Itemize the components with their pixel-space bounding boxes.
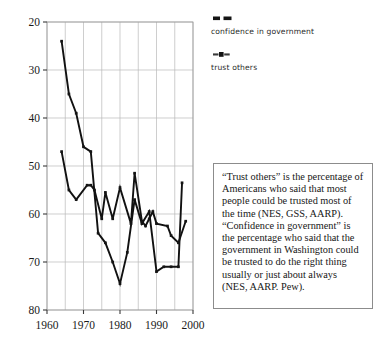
data-point-marker <box>170 265 173 268</box>
y-tick-label: 30 <box>29 64 41 76</box>
data-point-marker <box>89 184 92 187</box>
legend-label-confidence: confidence in government <box>211 27 381 37</box>
data-point-marker <box>86 184 89 187</box>
y-tick-label: 50 <box>29 160 41 172</box>
y-tick-label: 40 <box>29 112 41 124</box>
data-point-marker <box>104 191 107 194</box>
chart-page: 80706050403020 19601970198019902000 conf… <box>0 0 385 360</box>
data-point-marker <box>97 232 100 235</box>
data-point-marker <box>100 217 103 220</box>
legend-entry-trust: trust others <box>211 50 381 73</box>
data-point-marker <box>60 150 63 153</box>
data-point-marker <box>141 220 144 223</box>
data-point-marker <box>148 217 151 220</box>
annotation-text: “Trust others” is the percentage of Amer… <box>222 171 365 293</box>
data-point-marker <box>130 222 133 225</box>
y-tick-label: 20 <box>29 16 41 28</box>
data-point-marker <box>170 234 173 237</box>
data-point-marker <box>68 189 71 192</box>
series-line-0 <box>62 41 182 283</box>
data-point-marker <box>144 225 147 228</box>
legend-swatch-trust-icon <box>212 50 242 59</box>
data-point-marker <box>162 265 165 268</box>
data-point-marker <box>152 210 155 213</box>
data-point-marker <box>60 40 63 43</box>
x-tick-label: 2000 <box>182 319 205 331</box>
data-point-marker <box>75 198 78 201</box>
chart-legend: confidence in government trust others <box>211 14 381 86</box>
data-point-marker <box>104 241 107 244</box>
x-tick-label: 1960 <box>36 319 59 331</box>
data-point-marker <box>111 261 114 264</box>
data-point-marker <box>89 150 92 153</box>
legend-swatch-confidence-icon <box>212 14 242 23</box>
data-point-marker <box>184 220 187 223</box>
y-tick-label: 60 <box>29 208 41 220</box>
x-tick-label: 1980 <box>109 319 132 331</box>
chart-panel: 80706050403020 19601970198019902000 <box>0 0 210 360</box>
data-point-marker <box>133 172 136 175</box>
data-point-marker <box>155 222 158 225</box>
series-line-1 <box>62 152 186 243</box>
legend-entry-confidence: confidence in government <box>211 14 381 37</box>
line-chart: 80706050403020 19601970198019902000 <box>0 0 210 360</box>
data-series-group <box>60 40 187 285</box>
data-point-marker <box>126 251 129 254</box>
data-point-marker <box>119 186 122 189</box>
data-point-marker <box>181 181 184 184</box>
annotation-box: “Trust others” is the percentage of Amer… <box>213 163 373 309</box>
y-axis-tick-labels: 80706050403020 <box>29 16 41 316</box>
data-point-marker <box>177 265 180 268</box>
data-point-marker <box>166 225 169 228</box>
data-point-marker <box>111 217 114 220</box>
x-axis-tick-labels: 19601970198019902000 <box>36 319 205 331</box>
data-point-marker <box>119 282 122 285</box>
data-point-marker <box>68 93 71 96</box>
data-point-marker <box>93 189 96 192</box>
data-point-marker <box>75 112 78 115</box>
data-point-marker <box>148 210 151 213</box>
data-point-marker <box>177 241 180 244</box>
legend-label-trust: trust others <box>211 63 381 73</box>
data-point-marker <box>155 270 158 273</box>
y-tick-label: 70 <box>29 256 41 268</box>
y-tick-label: 80 <box>29 304 41 316</box>
x-tick-label: 1990 <box>145 319 168 331</box>
x-tick-label: 1970 <box>72 319 95 331</box>
data-point-marker <box>82 145 85 148</box>
